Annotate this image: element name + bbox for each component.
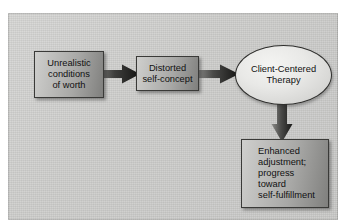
node-client-centered-therapy: Client-Centered Therapy [235, 45, 332, 105]
node-unrealistic-conditions-of-worth: Unrealistic conditions of worth [34, 51, 104, 98]
node-label: Enhanced adjustment; progress toward sel… [251, 146, 319, 201]
arrow-selfconcept-to-therapy-icon [196, 63, 240, 85]
node-label: Unrealistic conditions of worth [43, 58, 94, 91]
node-distorted-self-concept: Distorted self-concept [136, 56, 199, 91]
diagram-panel: Unrealistic conditions of worth Distorte… [8, 13, 338, 220]
arrow-conditions-to-selfconcept-icon [101, 63, 141, 85]
diagram-figure: Unrealistic conditions of worth Distorte… [0, 0, 344, 223]
node-label: Distorted self-concept [138, 63, 196, 85]
node-label: Client-Centered Therapy [251, 64, 316, 86]
node-enhanced-adjustment: Enhanced adjustment; progress toward sel… [241, 139, 329, 208]
